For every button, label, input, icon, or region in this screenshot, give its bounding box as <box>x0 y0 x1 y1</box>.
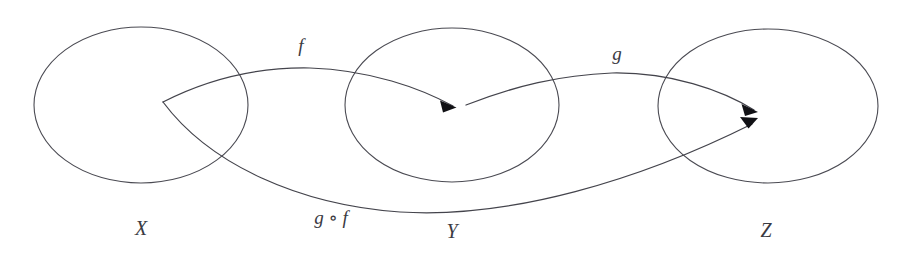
set-label-y: Y <box>446 220 459 242</box>
set-label-z: Z <box>760 219 772 241</box>
diagram-canvas: f g g ∘ f X Y Z <box>0 0 905 261</box>
morphism-label-f: f <box>298 35 306 56</box>
morphism-label-g: g <box>612 43 622 64</box>
arrowhead-g <box>742 104 759 116</box>
arrowhead-g-compose-f <box>740 117 758 129</box>
function-composition-diagram: f g g ∘ f X Y Z <box>0 0 905 261</box>
morphism-arrow-f <box>163 68 453 106</box>
set-label-x: X <box>134 217 148 239</box>
morphism-arrow-g <box>466 73 754 110</box>
morphism-arrow-g-compose-f <box>163 102 752 213</box>
morphism-label-g-compose-f: g ∘ f <box>314 207 350 228</box>
set-ellipse-z <box>658 29 878 183</box>
arrowhead-f <box>440 101 457 113</box>
set-ellipse-x <box>34 27 248 183</box>
